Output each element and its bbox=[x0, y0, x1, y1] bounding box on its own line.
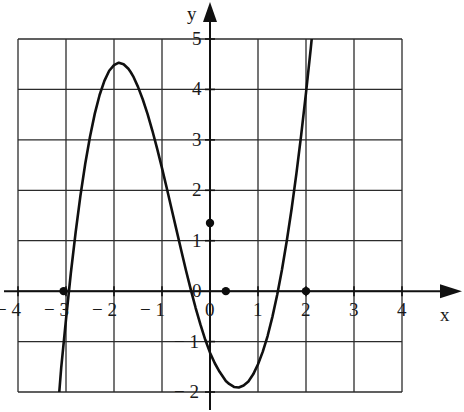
y-axis-label: y bbox=[187, 4, 197, 23]
plot-canvas bbox=[0, 0, 464, 412]
y-tick-label: 4 bbox=[192, 79, 202, 98]
marked-point bbox=[222, 287, 230, 295]
y-axis-arrow bbox=[203, 2, 217, 22]
curve-layer bbox=[59, 0, 354, 392]
graph-figure: − 4− 3− 2− 101234− 2− 1012345 y x bbox=[0, 0, 464, 412]
x-tick-label: − 2 bbox=[92, 300, 117, 319]
marked-point bbox=[302, 287, 310, 295]
x-tick-label: − 1 bbox=[140, 300, 165, 319]
x-tick-label: 1 bbox=[253, 300, 263, 319]
y-tick-label: − 1 bbox=[174, 332, 199, 351]
x-tick-label: 0 bbox=[205, 300, 215, 319]
y-tick-label: 2 bbox=[192, 180, 202, 199]
marked-point bbox=[59, 287, 67, 295]
y-tick-label: 5 bbox=[192, 29, 202, 48]
x-tick-label: 3 bbox=[349, 300, 359, 319]
x-tick-label: 4 bbox=[397, 300, 407, 319]
y-tick-label: 1 bbox=[192, 231, 202, 250]
marked-point bbox=[206, 219, 214, 227]
x-axis-arrow bbox=[440, 284, 462, 298]
y-tick-label: − 2 bbox=[174, 382, 199, 401]
x-tick-label: − 4 bbox=[0, 300, 21, 319]
marked-points-layer bbox=[59, 219, 310, 295]
x-tick-label: 2 bbox=[301, 300, 311, 319]
axis-lines bbox=[4, 2, 462, 410]
y-tick-label: 0 bbox=[192, 281, 202, 300]
x-axis-label: x bbox=[440, 305, 450, 324]
data-curve bbox=[59, 0, 354, 392]
x-tick-label: − 3 bbox=[44, 300, 69, 319]
y-tick-label: 3 bbox=[192, 130, 202, 149]
